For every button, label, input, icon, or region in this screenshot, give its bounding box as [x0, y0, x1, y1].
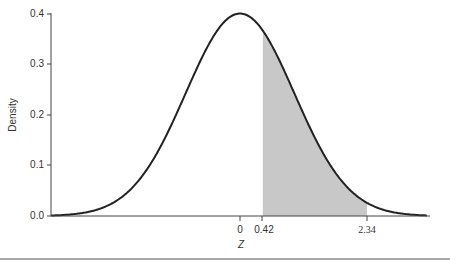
x-tick-label-234: 2.34: [358, 224, 376, 235]
y-axis-title: Density: [7, 98, 18, 131]
x-axis-title: Z: [237, 239, 245, 250]
chart-canvas: 0.0 0.1 0.2 0.3 0.4 Density 0 0.42 2.34 …: [0, 0, 450, 263]
y-tick-label-0: 0.0: [30, 210, 44, 221]
x-ticks: [240, 216, 367, 221]
x-tick-label-042: 0.42: [254, 224, 274, 235]
y-tick-label-4: 0.4: [30, 8, 44, 19]
x-tick-label-0: 0: [237, 224, 243, 235]
y-tick-label-2: 0.2: [30, 109, 44, 120]
density-curve: [51, 14, 427, 216]
y-tick-label-3: 0.3: [30, 58, 44, 69]
y-tick-label-1: 0.1: [30, 159, 44, 170]
y-ticks: [47, 14, 51, 216]
